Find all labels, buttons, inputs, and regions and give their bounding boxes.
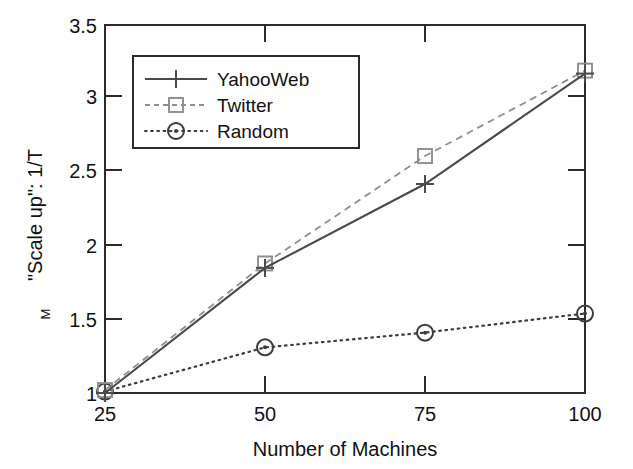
y-tick-label-3-5: 3.5 <box>69 15 97 37</box>
chart-figure: 1 1.5 2 2.5 3 3.5 25 50 75 100 Number of… <box>0 0 633 469</box>
y-tick-label-2-5: 2.5 <box>69 160 97 182</box>
y-tick-label-1: 1 <box>86 383 97 405</box>
y-tick-label-3: 3 <box>86 86 97 108</box>
chart-legend: YahooWeb Twitter Random <box>133 56 359 148</box>
x-tick-label-50: 50 <box>254 403 276 425</box>
x-axis-title: Number of Machines <box>253 438 438 460</box>
y-tick-label-1-5: 1.5 <box>69 309 97 331</box>
x-tick-label-75: 75 <box>414 403 436 425</box>
x-tick-label-25: 25 <box>94 403 116 425</box>
x-tick-label-100: 100 <box>568 403 601 425</box>
y-tick-label-2: 2 <box>86 235 97 257</box>
y-axis-title-subscript: M <box>38 309 53 320</box>
legend-label-twitter: Twitter <box>217 95 274 116</box>
circle-icon-center <box>174 129 178 133</box>
data-point-random-50-center <box>263 345 267 349</box>
scale-up-line-chart: 1 1.5 2 2.5 3 3.5 25 50 75 100 Number of… <box>0 0 633 469</box>
legend-label-random: Random <box>217 121 289 142</box>
y-axis-title: "Scale up": 1/T <box>24 149 46 281</box>
data-point-random-75-center <box>423 331 427 335</box>
data-point-random-100-center <box>583 312 587 316</box>
legend-label-yahooweb: YahooWeb <box>217 69 309 90</box>
